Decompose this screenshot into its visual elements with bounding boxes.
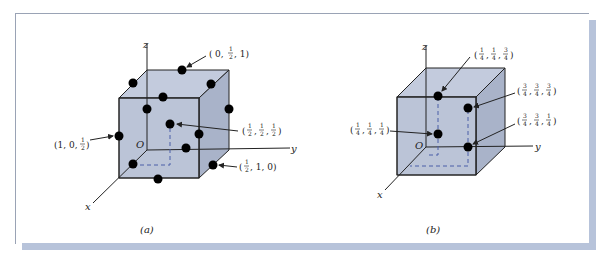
atom xyxy=(464,143,473,152)
coord-label-b1: ( 14 , 14 , 34 ) xyxy=(474,46,514,61)
svg-text:4: 4 xyxy=(380,129,384,136)
z-axis-label: z xyxy=(142,39,149,50)
svg-text:4: 4 xyxy=(480,54,484,61)
svg-text:,: , xyxy=(541,116,544,126)
atom xyxy=(129,79,138,88)
svg-text:3: 3 xyxy=(535,112,539,119)
svg-text:3: 3 xyxy=(523,82,527,89)
svg-text:): ) xyxy=(510,50,514,60)
svg-text:4: 4 xyxy=(356,129,360,136)
coord-label-b2: ( 34 , 34 , 34 ) xyxy=(517,82,557,97)
svg-text:,: , xyxy=(362,125,365,135)
cube-b: z y x O ( 14 , 14 , 34 ) ( 34 , 34 , 34 … xyxy=(350,41,557,235)
atom xyxy=(464,104,473,113)
svg-text:(: ( xyxy=(350,125,354,135)
coord-label-half-half-half: ( 1 2 , 1 2 , 1 2 ) xyxy=(242,122,282,137)
svg-text:,: , xyxy=(486,50,489,60)
svg-text:4: 4 xyxy=(368,129,372,136)
svg-text:): ) xyxy=(86,140,90,150)
atom xyxy=(129,160,138,169)
atom xyxy=(225,105,234,114)
atom xyxy=(115,132,124,141)
svg-text:4: 4 xyxy=(492,54,496,61)
svg-text:4: 4 xyxy=(523,120,527,127)
coord-label-b3: ( 14 , 14 , 14 ) xyxy=(350,121,390,136)
svg-text:0,: 0, xyxy=(215,49,224,59)
svg-text:4: 4 xyxy=(523,90,527,97)
coord-label-half-1-0: ( 1 2 , 1, 0) xyxy=(239,158,276,173)
svg-text:,: , xyxy=(266,126,269,136)
z-axis-label: z xyxy=(421,41,428,52)
svg-text:4: 4 xyxy=(547,120,551,127)
svg-text:1: 1 xyxy=(248,122,252,129)
svg-text:4: 4 xyxy=(547,90,551,97)
coord-label-b4: ( 34 , 34 , 14 ) xyxy=(517,112,557,127)
svg-text:3: 3 xyxy=(523,112,527,119)
svg-text:4: 4 xyxy=(504,54,508,61)
svg-text:1: 1 xyxy=(229,45,233,52)
svg-text:(: ( xyxy=(517,86,521,96)
svg-text:3: 3 xyxy=(504,46,508,53)
atom xyxy=(434,92,443,101)
atom xyxy=(209,161,218,170)
svg-text:(: ( xyxy=(474,50,478,60)
caption-a: (a) xyxy=(140,224,154,235)
svg-text:1: 1 xyxy=(480,46,484,53)
atom xyxy=(182,144,191,153)
x-axis-label: x xyxy=(377,189,383,200)
y-axis-label: y xyxy=(534,141,541,152)
svg-text:,: , xyxy=(374,125,377,135)
caption-b: (b) xyxy=(426,224,440,235)
atom xyxy=(207,80,216,89)
svg-text:1: 1 xyxy=(380,121,384,128)
atom xyxy=(178,66,187,75)
svg-text:2: 2 xyxy=(248,130,252,137)
svg-text:2: 2 xyxy=(245,166,249,173)
svg-text:): ) xyxy=(553,116,557,126)
svg-text:(: ( xyxy=(517,116,521,126)
atom xyxy=(166,120,175,129)
svg-text:(1, 0,: (1, 0, xyxy=(54,140,78,150)
origin-label: O xyxy=(415,140,423,151)
atom xyxy=(195,130,204,139)
atom xyxy=(154,175,163,184)
svg-text:(: ( xyxy=(239,162,243,172)
svg-text:1: 1 xyxy=(272,122,276,129)
svg-text:,: , xyxy=(529,116,532,126)
svg-text:,: , xyxy=(254,126,257,136)
coord-label-0-half-1: ( 0, 1 2 , 1) xyxy=(209,45,249,60)
svg-text:2: 2 xyxy=(272,130,276,137)
svg-text:1: 1 xyxy=(356,121,360,128)
svg-text:1: 1 xyxy=(547,112,551,119)
svg-text:4: 4 xyxy=(535,90,539,97)
svg-text:,: , xyxy=(529,86,532,96)
crystal-diagram: z y x O ( 0, 1 2 , 1) ( 1 2 , 1 2 , 1 2 … xyxy=(0,0,609,261)
origin-label: O xyxy=(136,139,144,150)
svg-text:1: 1 xyxy=(245,158,249,165)
svg-text:1: 1 xyxy=(81,136,85,143)
svg-text:2: 2 xyxy=(260,130,264,137)
svg-text:): ) xyxy=(553,86,557,96)
svg-text:(: ( xyxy=(209,49,213,59)
atom xyxy=(143,105,152,114)
svg-text:2: 2 xyxy=(81,144,85,151)
svg-text:, 1, 0): , 1, 0) xyxy=(250,162,276,172)
svg-text:1: 1 xyxy=(492,46,496,53)
svg-text:2: 2 xyxy=(229,53,233,60)
x-axis-label: x xyxy=(85,201,91,212)
svg-text:4: 4 xyxy=(535,120,539,127)
y-axis-label: y xyxy=(290,143,297,154)
svg-text:): ) xyxy=(386,125,390,135)
svg-text:3: 3 xyxy=(547,82,551,89)
svg-text:,: , xyxy=(498,50,501,60)
svg-text:): ) xyxy=(278,126,282,136)
svg-text:(: ( xyxy=(242,126,246,136)
svg-text:, 1): , 1) xyxy=(234,49,249,59)
svg-text:3: 3 xyxy=(535,82,539,89)
svg-text:1: 1 xyxy=(260,122,264,129)
svg-text:,: , xyxy=(541,86,544,96)
atom xyxy=(434,130,443,139)
svg-text:1: 1 xyxy=(368,121,372,128)
coord-label-1-0-half: (1, 0, 1 2 ) xyxy=(54,136,90,151)
atom xyxy=(159,93,168,102)
